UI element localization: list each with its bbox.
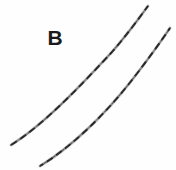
figure-panel: B xyxy=(0,0,176,170)
filament-plot-canvas xyxy=(0,0,176,170)
panel-label: B xyxy=(46,26,64,50)
panel-background xyxy=(0,0,176,170)
